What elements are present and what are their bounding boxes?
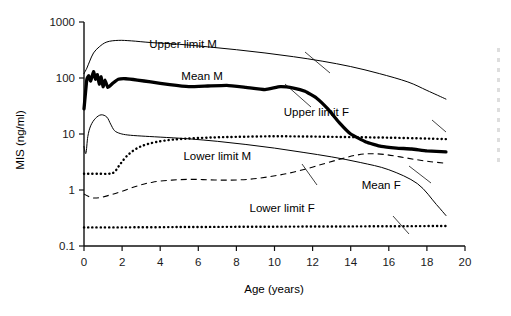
x-tick-label: 18 bbox=[421, 256, 434, 268]
x-tick-label: 14 bbox=[344, 256, 357, 268]
label-lower-limit-f: Lower limit F bbox=[250, 202, 315, 214]
label-mean-f: Mean F bbox=[362, 179, 401, 191]
x-tick-label: 16 bbox=[382, 256, 395, 268]
leader-line bbox=[432, 120, 446, 132]
label-upper-limit-f: Upper limit F bbox=[284, 106, 349, 118]
label-lower-limit-m: Lower limit M bbox=[183, 150, 251, 162]
x-tick-label: 12 bbox=[306, 256, 319, 268]
label-mean-m: Mean M bbox=[181, 70, 223, 82]
y-tick-label: 0.1 bbox=[59, 240, 75, 252]
adjacent-column-text-fragment bbox=[497, 48, 511, 198]
x-tick-label: 6 bbox=[195, 256, 201, 268]
axis-tick-marks bbox=[79, 22, 465, 251]
x-tick-label: 4 bbox=[157, 256, 164, 268]
x-tick-label: 2 bbox=[119, 256, 125, 268]
x-tick-label: 20 bbox=[459, 256, 472, 268]
x-axis-title: Age (years) bbox=[244, 283, 304, 295]
data-series-group bbox=[84, 40, 446, 227]
chart-figure: 0.11101001000 02468101214161820 Upper li… bbox=[0, 0, 511, 316]
series-mean-f bbox=[84, 154, 446, 198]
y-tick-label: 100 bbox=[56, 72, 75, 84]
series-lower-limit-f bbox=[84, 226, 446, 227]
y-axis-tick-labels: 0.11101001000 bbox=[49, 16, 75, 252]
series-mean-m bbox=[84, 72, 446, 152]
label-upper-limit-m: Upper limit M bbox=[149, 38, 217, 50]
x-tick-label: 0 bbox=[81, 256, 87, 268]
y-tick-label: 10 bbox=[62, 128, 75, 140]
y-tick-label: 1000 bbox=[49, 16, 75, 28]
chart-canvas: 0.11101001000 02468101214161820 Upper li… bbox=[0, 0, 511, 316]
y-axis-title: MIS (ng/ml) bbox=[14, 110, 26, 170]
y-tick-label: 1 bbox=[69, 184, 75, 196]
leader-line bbox=[305, 52, 330, 73]
series-lower-limit-m bbox=[84, 115, 446, 216]
leader-line bbox=[302, 164, 317, 185]
x-tick-label: 8 bbox=[233, 256, 239, 268]
x-tick-label: 10 bbox=[268, 256, 281, 268]
x-axis-tick-labels: 02468101214161820 bbox=[81, 256, 472, 268]
leader-line bbox=[393, 216, 409, 234]
